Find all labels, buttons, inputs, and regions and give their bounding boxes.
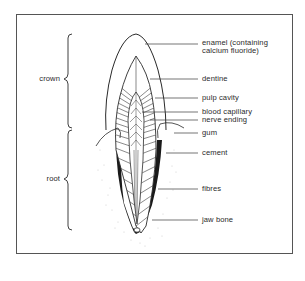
enamel-label-line2: calcium fluoride) xyxy=(202,47,268,55)
pulp-cavity-label: pulp cavity xyxy=(202,94,239,102)
root-brace xyxy=(64,130,72,230)
jaw-bone-label: jaw bone xyxy=(202,216,233,224)
dentine-label: dentine xyxy=(202,75,228,83)
gum-right xyxy=(157,123,184,138)
crown-label: crown xyxy=(0,75,60,83)
gum-label: gum xyxy=(202,129,217,137)
cement-label: cement xyxy=(202,149,228,157)
fibres-label: fibres xyxy=(202,185,221,193)
root-label: root xyxy=(0,175,60,183)
enamel-label: enamel (containing calcium fluoride) xyxy=(202,39,268,56)
nerve-ending-label: nerve ending xyxy=(202,116,247,124)
root-apex xyxy=(134,228,140,232)
crown-brace xyxy=(64,34,72,128)
